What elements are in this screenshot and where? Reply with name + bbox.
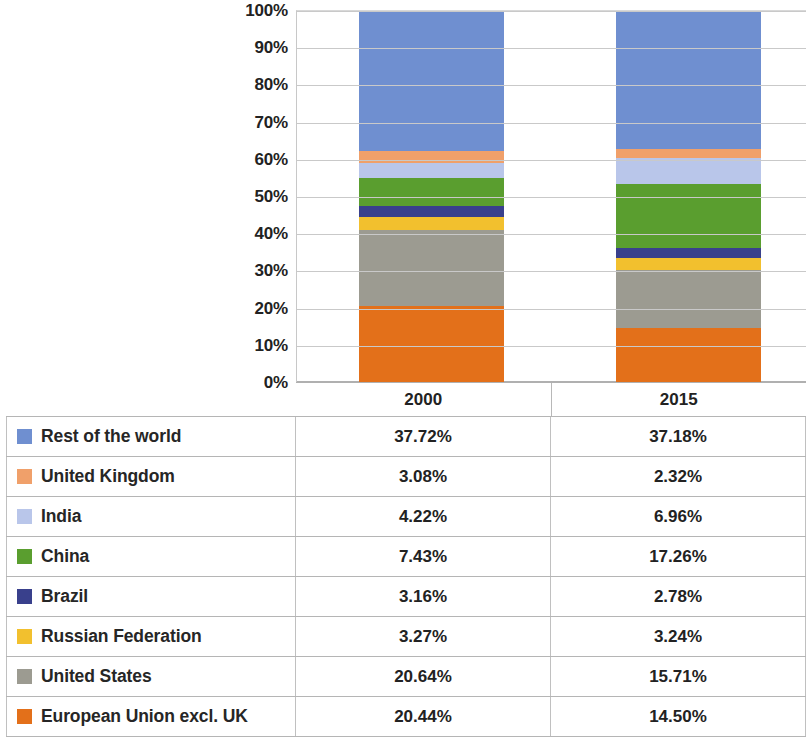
gridline <box>297 346 806 347</box>
stacked-bar-chart: 0%10%20%30%40%50%60%70%80%90%100% 200020… <box>0 0 808 410</box>
bar-segment[interactable] <box>359 217 504 229</box>
bar-segment[interactable] <box>616 270 761 328</box>
table-cell-v2015: 2.32% <box>551 457 806 496</box>
legend-label: Russian Federation <box>41 626 202 647</box>
legend-swatch-icon <box>17 509 32 524</box>
gridline <box>297 160 806 161</box>
y-axis-tick-label: 0% <box>212 374 288 391</box>
y-axis-tick-label: 100% <box>212 2 288 19</box>
legend-label: United States <box>41 666 152 687</box>
legend-swatch-icon <box>17 429 32 444</box>
bar-segment[interactable] <box>359 230 504 307</box>
legend-entry[interactable]: Brazil <box>6 577 296 616</box>
y-axis-tick-label: 50% <box>212 188 288 205</box>
legend-entry[interactable]: China <box>6 537 296 576</box>
y-axis-tick-label: 20% <box>212 299 288 316</box>
y-axis-tick-label: 90% <box>212 39 288 56</box>
table-row: China7.43%17.26% <box>6 537 806 577</box>
table-cell-v2000: 3.27% <box>296 617 551 656</box>
table-row: India4.22%6.96% <box>6 497 806 537</box>
table-row: European Union excl. UK20.44%14.50% <box>6 697 806 737</box>
gridline <box>297 271 806 272</box>
legend-swatch-icon <box>17 669 32 684</box>
bar-segment[interactable] <box>359 163 504 179</box>
bar-segment[interactable] <box>359 306 504 382</box>
table-cell-v2015: 14.50% <box>551 697 806 736</box>
table-row: Rest of the world37.72%37.18% <box>6 417 806 457</box>
table-cell-v2000: 20.64% <box>296 657 551 696</box>
legend-swatch-icon <box>17 469 32 484</box>
bar-segment[interactable] <box>616 248 761 258</box>
table-cell-v2000: 3.08% <box>296 457 551 496</box>
legend-label: Brazil <box>41 586 88 607</box>
table-cell-v2000: 7.43% <box>296 537 551 576</box>
table-row: Russian Federation3.27%3.24% <box>6 617 806 657</box>
y-axis-tick-label: 70% <box>212 113 288 130</box>
legend-entry[interactable]: United Kingdom <box>6 457 296 496</box>
bar-segment[interactable] <box>616 328 761 382</box>
chart-page: 0%10%20%30%40%50%60%70%80%90%100% 200020… <box>0 0 808 740</box>
bar-segment[interactable] <box>616 184 761 248</box>
bar-segment[interactable] <box>616 158 761 184</box>
data-table: Rest of the world37.72%37.18%United King… <box>6 416 806 736</box>
category-label-2015: 2015 <box>551 383 807 416</box>
legend-label: European Union excl. UK <box>41 706 248 727</box>
legend-entry[interactable]: United States <box>6 657 296 696</box>
legend-label: United Kingdom <box>41 466 175 487</box>
y-axis: 0%10%20%30%40%50%60%70%80%90%100% <box>212 2 288 382</box>
legend-entry[interactable]: Rest of the world <box>6 417 296 456</box>
gridline <box>297 123 806 124</box>
y-axis-tick-label: 10% <box>212 336 288 353</box>
gridline <box>297 11 806 12</box>
table-cell-v2000: 37.72% <box>296 417 551 456</box>
bar-segment[interactable] <box>616 11 761 149</box>
legend-entry[interactable]: European Union excl. UK <box>6 697 296 736</box>
legend-swatch-icon <box>17 629 32 644</box>
table-cell-v2015: 15.71% <box>551 657 806 696</box>
bar-segment[interactable] <box>616 149 761 158</box>
gridline <box>297 234 806 235</box>
table-cell-v2015: 6.96% <box>551 497 806 536</box>
y-axis-tick-label: 80% <box>212 76 288 93</box>
bar-segment[interactable] <box>616 258 761 270</box>
legend-entry[interactable]: India <box>6 497 296 536</box>
legend-entry[interactable]: Russian Federation <box>6 617 296 656</box>
bar-segment[interactable] <box>359 206 504 218</box>
gridline <box>297 48 806 49</box>
table-cell-v2000: 4.22% <box>296 497 551 536</box>
gridline <box>297 85 806 86</box>
legend-label: India <box>41 506 81 527</box>
gridline <box>297 309 806 310</box>
table-cell-v2000: 20.44% <box>296 697 551 736</box>
bar-segment[interactable] <box>359 178 504 206</box>
bar-segment[interactable] <box>359 151 504 162</box>
y-axis-tick-label: 30% <box>212 262 288 279</box>
table-cell-v2015: 17.26% <box>551 537 806 576</box>
bar-segment[interactable] <box>359 11 504 151</box>
legend-label: China <box>41 546 89 567</box>
table-row: United Kingdom3.08%2.32% <box>6 457 806 497</box>
legend-swatch-icon <box>17 709 32 724</box>
y-axis-tick-label: 40% <box>212 225 288 242</box>
gridline <box>297 197 806 198</box>
category-label-2000: 2000 <box>296 383 551 416</box>
y-axis-tick-label: 60% <box>212 150 288 167</box>
table-cell-v2015: 3.24% <box>551 617 806 656</box>
legend-swatch-icon <box>17 589 32 604</box>
plot-area <box>296 10 806 382</box>
table-row: Brazil3.16%2.78% <box>6 577 806 617</box>
table-row: United States20.64%15.71% <box>6 657 806 697</box>
table-cell-v2015: 37.18% <box>551 417 806 456</box>
category-axis-row: 20002015 <box>296 382 806 416</box>
table-cell-v2015: 2.78% <box>551 577 806 616</box>
legend-label: Rest of the world <box>41 426 181 447</box>
table-cell-v2000: 3.16% <box>296 577 551 616</box>
legend-swatch-icon <box>17 549 32 564</box>
